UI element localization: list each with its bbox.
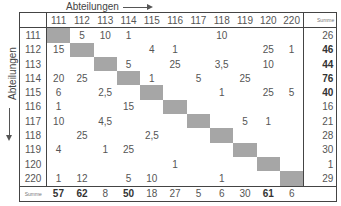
matrix-cell: 10 xyxy=(210,28,233,43)
column-header: 112 xyxy=(70,13,93,28)
matrix-cell xyxy=(280,143,304,157)
matrix-cell xyxy=(94,71,117,85)
matrix-cell xyxy=(187,143,210,157)
diagonal-cell xyxy=(140,85,163,99)
matrix-cell: 2,5 xyxy=(140,128,163,142)
matrix-cell xyxy=(257,100,280,114)
column-sum: 6 xyxy=(280,186,304,201)
matrix-cell: 25 xyxy=(257,43,280,57)
matrix-cell xyxy=(210,157,233,171)
row-sum: 76 xyxy=(304,71,337,85)
matrix-cell xyxy=(94,171,117,186)
matrix-cell: 6 xyxy=(47,85,71,99)
column-sum-row: Summe576285018275630616 xyxy=(20,186,337,201)
matrix-cell: 25 xyxy=(70,71,93,85)
matrix-cell xyxy=(210,100,233,114)
matrix-cell: 5 xyxy=(187,71,210,85)
column-sum: 62 xyxy=(70,186,93,201)
matrix-cell: 1 xyxy=(94,143,117,157)
matrix-cell xyxy=(280,128,304,142)
matrix-cell xyxy=(70,157,93,171)
matrix-cell xyxy=(187,85,210,99)
table-row: 11151011026 xyxy=(20,28,337,43)
diagonal-cell xyxy=(117,71,140,85)
column-header: 117 xyxy=(187,13,210,28)
matrix-cell: 1 xyxy=(210,85,233,99)
diagonal-cell xyxy=(47,28,71,43)
matrix-cell xyxy=(187,57,210,71)
column-header: 220 xyxy=(280,13,304,28)
column-sum: 8 xyxy=(94,186,117,201)
matrix-cell: 1 xyxy=(117,28,140,43)
matrix-cell xyxy=(187,171,210,186)
matrix-cell: 4,5 xyxy=(94,114,117,128)
matrix-cell xyxy=(117,85,140,99)
matrix-cell xyxy=(117,157,140,171)
matrix-cell xyxy=(210,71,233,85)
column-sum: 30 xyxy=(233,186,256,201)
diagonal-cell xyxy=(233,143,256,157)
column-sum: 61 xyxy=(257,186,280,201)
matrix-cell xyxy=(140,57,163,71)
column-sum: 27 xyxy=(163,186,186,201)
matrix-cell xyxy=(257,28,280,43)
column-sum: 57 xyxy=(47,186,71,201)
matrix-cell xyxy=(163,28,186,43)
column-header: 120 xyxy=(257,13,280,28)
matrix-cell xyxy=(280,28,304,43)
matrix-cell xyxy=(140,157,163,171)
matrix-cell xyxy=(163,171,186,186)
matrix-cell xyxy=(257,171,280,186)
matrix-cell xyxy=(70,57,93,71)
table-row: 220112510129 xyxy=(20,171,337,186)
matrix-cell: 5 xyxy=(117,57,140,71)
row-header: 120 xyxy=(20,157,47,171)
row-sum: 44 xyxy=(304,57,337,71)
matrix-cell xyxy=(210,114,233,128)
row-header: 113 xyxy=(20,57,47,71)
diagonal-cell xyxy=(94,57,117,71)
matrix-cell xyxy=(233,128,256,142)
table-row: 11611516 xyxy=(20,100,337,114)
matrix-cell xyxy=(140,143,163,157)
matrix-cell: 5 xyxy=(280,85,304,99)
row-header: 117 xyxy=(20,114,47,128)
matrix-cell: 15 xyxy=(117,100,140,114)
matrix-cell xyxy=(70,100,93,114)
column-header-row: 111112113114115116117118119120220Summe xyxy=(20,13,337,28)
matrix-cell xyxy=(210,43,233,57)
column-sum: 18 xyxy=(140,186,163,201)
matrix-cell xyxy=(47,128,71,142)
table-row: 1135253,51044 xyxy=(20,57,337,71)
matrix-cell: 10 xyxy=(257,57,280,71)
matrix-cell: 25 xyxy=(233,71,256,85)
diagonal-cell xyxy=(257,157,280,171)
matrix-cell xyxy=(163,85,186,99)
matrix-cell xyxy=(233,157,256,171)
arrow-right-icon xyxy=(123,7,151,8)
row-axis-text: Abteilungen xyxy=(7,44,18,104)
matrix-cell xyxy=(280,57,304,71)
matrix-cell xyxy=(187,28,210,43)
matrix-cell xyxy=(94,43,117,57)
column-sum: 50 xyxy=(117,186,140,201)
sum-row-label: Summe xyxy=(20,186,47,201)
matrix-cell: 3,5 xyxy=(210,57,233,71)
matrix-cell: 1 xyxy=(257,114,280,128)
table-row: 1142025152576 xyxy=(20,71,337,85)
matrix-cell xyxy=(70,114,93,128)
matrix-cell xyxy=(233,85,256,99)
matrix-cell: 25 xyxy=(70,128,93,142)
row-header: 114 xyxy=(20,71,47,85)
table-row: 119412530 xyxy=(20,143,337,157)
matrix-cell: 10 xyxy=(47,114,71,128)
matrix-cell: 5 xyxy=(70,28,93,43)
row-axis-label: Abteilungen xyxy=(4,40,16,190)
matrix-cell xyxy=(163,71,186,85)
matrix-cell: 1 xyxy=(280,43,304,57)
matrix-cell: 1 xyxy=(163,157,186,171)
matrix-cell: 5 xyxy=(233,114,256,128)
matrix-cell xyxy=(187,157,210,171)
matrix-cell: 25 xyxy=(163,57,186,71)
row-sum: 30 xyxy=(304,143,337,157)
